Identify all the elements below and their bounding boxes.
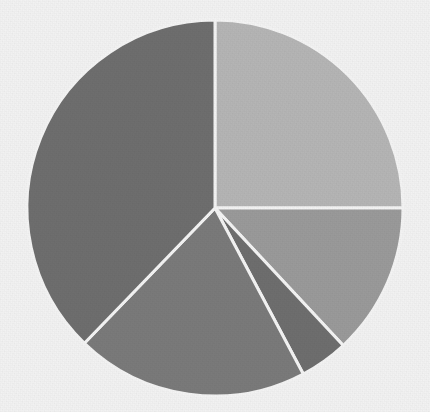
pie-chart-svg	[0, 0, 430, 412]
pie-chart-figure	[0, 0, 430, 412]
pie-slices-group	[27, 20, 403, 396]
